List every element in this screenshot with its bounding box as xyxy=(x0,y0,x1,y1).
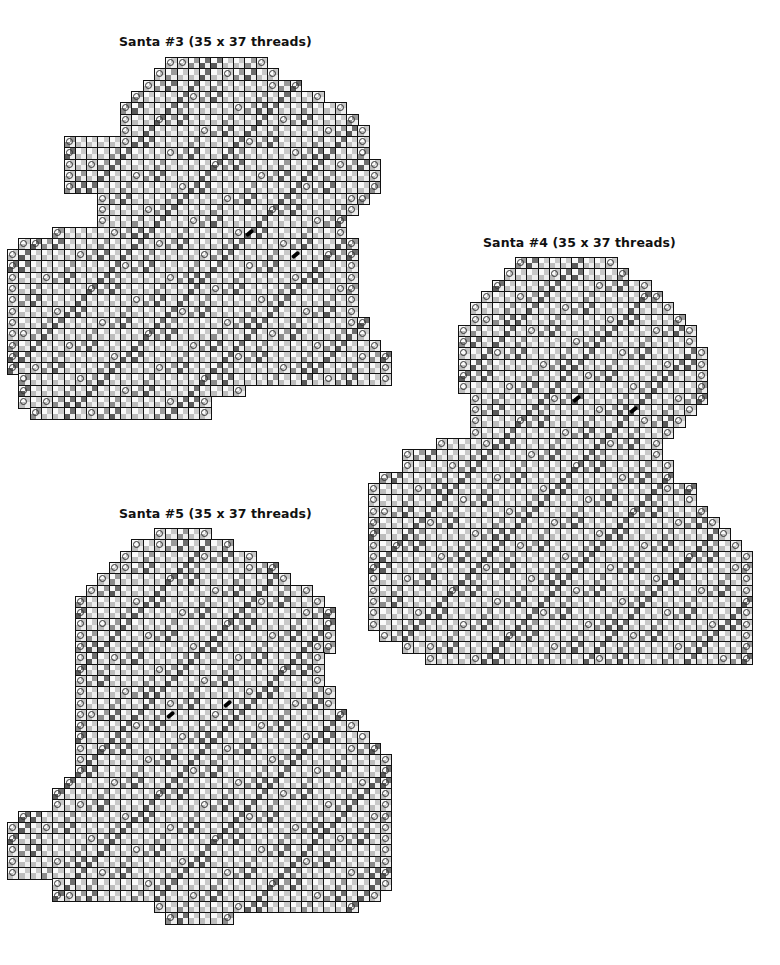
stitch-cell xyxy=(684,404,697,417)
stitch-cell xyxy=(323,641,336,654)
stitch-cell xyxy=(673,415,686,428)
stitch-cell xyxy=(662,427,675,440)
stitch-cell xyxy=(199,407,212,420)
chart-title-santa-4: Santa #4 (35 x 37 threads) xyxy=(483,235,676,250)
stitch-cell xyxy=(357,193,370,206)
stitch-cell xyxy=(222,912,235,925)
chart-title-santa-5: Santa #5 (35 x 37 threads) xyxy=(119,506,312,521)
stitch-cell xyxy=(696,393,709,406)
stitch-cell xyxy=(369,181,382,194)
stitch-cell xyxy=(346,204,359,217)
chart-title-santa-3: Santa #3 (35 x 37 threads) xyxy=(119,34,312,49)
stitch-cell xyxy=(233,385,246,398)
stitch-cell xyxy=(346,901,359,914)
stitch-cell xyxy=(380,878,393,891)
stitch-cell xyxy=(369,890,382,903)
stitch-cell xyxy=(741,653,754,666)
stitch-cell xyxy=(380,373,393,386)
